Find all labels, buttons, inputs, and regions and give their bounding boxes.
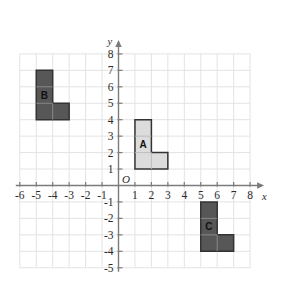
x-tick-label: -2 [81,189,91,201]
y-tick-label: -4 [104,245,114,257]
shape-label-c: C [205,221,212,232]
y-tick-label: 2 [108,147,114,159]
x-tick-label: 2 [149,189,155,201]
y-tick-label: -3 [104,229,114,241]
y-tick-label: 8 [108,48,114,60]
y-tick-label: 3 [108,130,114,142]
x-tick-label: 8 [247,189,253,201]
x-tick-label: -4 [48,189,58,201]
shape-label-b: B [41,90,48,101]
y-axis-arrow-icon [115,40,121,47]
x-axis-arrow-icon [257,182,264,188]
x-axis-name: x [261,191,267,202]
x-tick-label: -3 [64,189,74,201]
y-tick-label: 7 [108,64,114,76]
x-tick-label: -6 [15,189,25,201]
x-tick-label: 5 [198,189,204,201]
x-tick-label: 3 [165,189,171,201]
coordinate-grid-svg: -6-5-4-3-2-11234567887654321-1-2-3-4-5O … [0,0,305,296]
x-tick-label: 7 [231,189,237,201]
x-tick-label: -5 [31,189,41,201]
coordinate-plane-figure: -6-5-4-3-2-11234567887654321-1-2-3-4-5O … [0,0,305,296]
x-tick-label: 6 [214,189,220,201]
shape-label-a: A [140,139,147,150]
x-tick-label: 1 [132,189,138,201]
y-tick-label: 1 [108,163,114,175]
y-tick-label: 4 [108,114,114,126]
x-tick-label: 4 [181,189,187,201]
y-tick-label: -5 [104,262,114,274]
y-tick-label: 5 [108,97,114,109]
y-axis-name: y [107,36,113,47]
y-tick-label: -2 [104,212,114,224]
y-tick-label: -1 [104,196,114,208]
y-tick-label: 6 [108,81,114,93]
origin-label: O [122,173,130,185]
axis-names: xy [107,36,268,202]
